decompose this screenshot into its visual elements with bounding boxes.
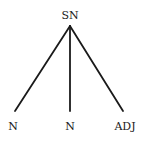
edge-sn-to-adj (70, 26, 123, 111)
syntax-tree-diagram: SN N N ADJ (0, 0, 147, 143)
leaf-node-n-middle: N (65, 121, 75, 132)
leaf-node-adj: ADJ (114, 121, 135, 132)
edge-sn-to-left-n (15, 26, 70, 111)
leaf-node-n-left: N (8, 121, 18, 132)
root-node-sn: SN (61, 10, 78, 21)
